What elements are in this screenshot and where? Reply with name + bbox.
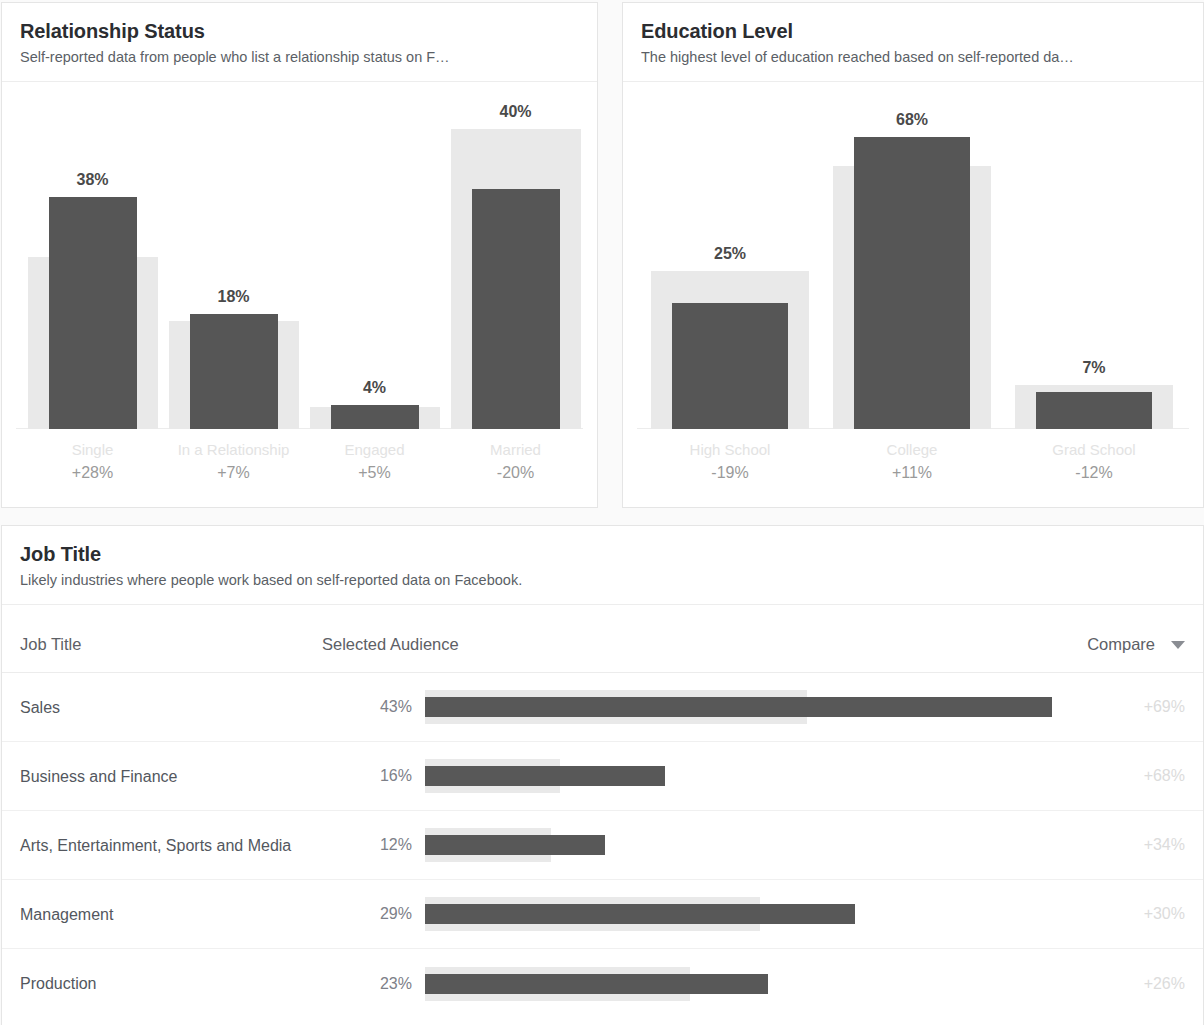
- job-title-card: Job Title Likely industries where people…: [1, 525, 1204, 1025]
- compare-value: +34%: [1144, 811, 1185, 879]
- column-plot-area: 25%: [639, 82, 821, 429]
- row-bar-area: [425, 742, 1043, 810]
- column-labels: Engaged+5%: [304, 429, 445, 507]
- education-column-1[interactable]: 68%College+11%: [821, 82, 1003, 507]
- audience-bar: [190, 314, 278, 429]
- column-header-job-title[interactable]: Job Title: [20, 635, 81, 654]
- column-labels: Grad School-12%: [1003, 429, 1185, 507]
- column-plot-area: 38%: [22, 82, 163, 429]
- column-header-compare-label: Compare: [1087, 635, 1155, 654]
- education-column-0[interactable]: 25%High School-19%: [639, 82, 821, 507]
- caret-down-icon[interactable]: [1171, 641, 1185, 649]
- compare-delta-label: +28%: [22, 461, 163, 485]
- education-card-title: Education Level: [641, 19, 1185, 43]
- category-label: High School: [639, 439, 821, 461]
- relationship-card-title: Relationship Status: [20, 19, 579, 43]
- job-title-name: Arts, Entertainment, Sports and Media: [20, 811, 310, 879]
- table-row[interactable]: Business and Finance16%+68%: [2, 742, 1203, 811]
- job-title-table-body: Sales43%+69%Business and Finance16%+68%A…: [2, 673, 1203, 1018]
- job-title-card-header: Job Title Likely industries where people…: [2, 526, 1203, 605]
- table-row[interactable]: Production23%+26%: [2, 949, 1203, 1018]
- category-label: Engaged: [304, 439, 445, 461]
- audience-bar: [672, 303, 788, 429]
- audience-bar: [425, 904, 855, 924]
- category-label: Married: [445, 439, 586, 461]
- audience-percent: 29%: [342, 880, 412, 948]
- relationship-card-header: Relationship Status Self-reported data f…: [2, 3, 597, 82]
- bar-value-label: 38%: [22, 171, 163, 189]
- column-plot-area: 7%: [1003, 82, 1185, 429]
- audience-bar: [425, 974, 768, 994]
- table-row[interactable]: Sales43%+69%: [2, 673, 1203, 742]
- audience-percent: 12%: [342, 811, 412, 879]
- audience-bar: [1036, 392, 1152, 429]
- column-labels: High School-19%: [639, 429, 821, 507]
- column-plot-area: 40%: [445, 82, 586, 429]
- bar-value-label: 40%: [445, 103, 586, 121]
- audience-percent: 16%: [342, 742, 412, 810]
- column-plot-area: 18%: [163, 82, 304, 429]
- column-header-compare[interactable]: Compare: [1087, 635, 1185, 654]
- audience-bar: [49, 197, 137, 429]
- relationship-status-bar-chart: 38%Single+28%18%In a Relationship+7%4%En…: [2, 82, 597, 507]
- bar-value-label: 18%: [163, 288, 304, 306]
- job-title-name: Production: [20, 949, 310, 1018]
- bar-value-label: 25%: [639, 245, 821, 263]
- education-column-2[interactable]: 7%Grad School-12%: [1003, 82, 1185, 507]
- category-label: Single: [22, 439, 163, 461]
- compare-delta-label: -12%: [1003, 461, 1185, 485]
- row-bar-area: [425, 811, 1043, 879]
- compare-delta-label: +11%: [821, 461, 1003, 485]
- row-bar-area: [425, 880, 1043, 948]
- compare-value: +68%: [1144, 742, 1185, 810]
- audience-bar: [472, 189, 560, 429]
- education-card-subtitle: The highest level of education reached b…: [641, 48, 1185, 67]
- audience-bar: [425, 835, 605, 855]
- education-card-header: Education Level The highest level of edu…: [623, 3, 1203, 82]
- category-label: Grad School: [1003, 439, 1185, 461]
- column-labels: Married-20%: [445, 429, 586, 507]
- audience-bar: [425, 697, 1052, 717]
- relationship-column-2[interactable]: 4%Engaged+5%: [304, 82, 445, 507]
- table-row[interactable]: Management29%+30%: [2, 880, 1203, 949]
- education-level-card: Education Level The highest level of edu…: [622, 2, 1204, 508]
- compare-delta-label: +7%: [163, 461, 304, 485]
- compare-value: +30%: [1144, 880, 1185, 948]
- column-labels: Single+28%: [22, 429, 163, 507]
- audience-bar: [331, 405, 419, 429]
- compare-delta-label: +5%: [304, 461, 445, 485]
- compare-delta-label: -20%: [445, 461, 586, 485]
- category-label: College: [821, 439, 1003, 461]
- compare-delta-label: -19%: [639, 461, 821, 485]
- column-labels: In a Relationship+7%: [163, 429, 304, 507]
- audience-bar: [425, 766, 665, 786]
- relationship-column-3[interactable]: 40%Married-20%: [445, 82, 586, 507]
- relationship-column-0[interactable]: 38%Single+28%: [22, 82, 163, 507]
- relationship-status-card: Relationship Status Self-reported data f…: [1, 2, 598, 508]
- column-labels: College+11%: [821, 429, 1003, 507]
- column-plot-area: 68%: [821, 82, 1003, 429]
- audience-percent: 43%: [342, 673, 412, 741]
- audience-percent: 23%: [342, 949, 412, 1018]
- job-title-name: Management: [20, 880, 310, 948]
- row-bar-area: [425, 673, 1043, 741]
- compare-value: +26%: [1144, 949, 1185, 1018]
- category-label: In a Relationship: [163, 439, 304, 461]
- column-header-selected-audience[interactable]: Selected Audience: [322, 635, 459, 654]
- bar-value-label: 68%: [821, 111, 1003, 129]
- job-title-name: Business and Finance: [20, 742, 310, 810]
- bar-value-label: 7%: [1003, 359, 1185, 377]
- job-title-name: Sales: [20, 673, 310, 741]
- table-row[interactable]: Arts, Entertainment, Sports and Media12%…: [2, 811, 1203, 880]
- row-bar-area: [425, 949, 1043, 1018]
- audience-insights-page: Relationship Status Self-reported data f…: [0, 0, 1204, 1025]
- job-title-card-title: Job Title: [20, 542, 1185, 566]
- job-title-table-header: Job Title Selected Audience Compare: [2, 619, 1203, 673]
- compare-value: +69%: [1144, 673, 1185, 741]
- job-title-card-subtitle: Likely industries where people work base…: [20, 571, 1185, 590]
- column-plot-area: 4%: [304, 82, 445, 429]
- audience-bar: [854, 137, 970, 429]
- relationship-card-subtitle: Self-reported data from people who list …: [20, 48, 579, 67]
- relationship-column-1[interactable]: 18%In a Relationship+7%: [163, 82, 304, 507]
- education-level-bar-chart: 25%High School-19%68%College+11%7%Grad S…: [623, 82, 1203, 507]
